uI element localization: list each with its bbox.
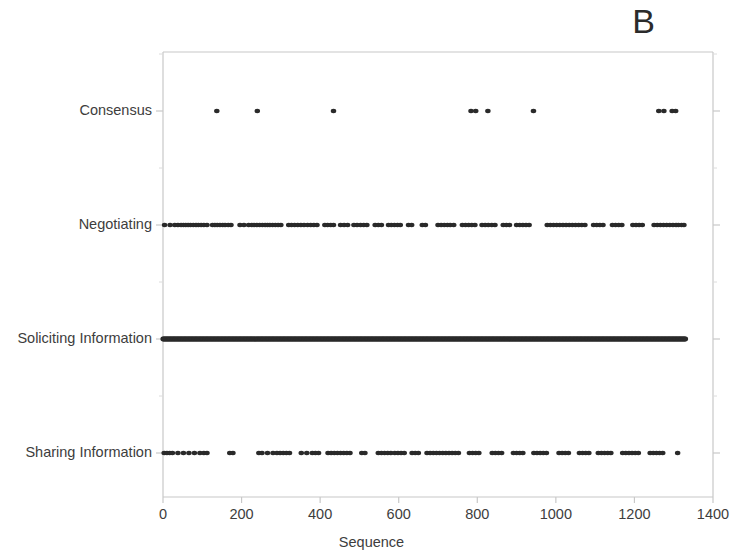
x-tick-label: 200 xyxy=(202,506,282,522)
y-tick-label: Consensus xyxy=(0,102,152,118)
x-tick-label: 400 xyxy=(280,506,360,522)
panel-label: B xyxy=(632,2,655,41)
y-tick-label: Negotiating xyxy=(0,216,152,232)
x-tick-label: 800 xyxy=(437,506,517,522)
figure-panel: B 0200400600800100012001400ConsensusNego… xyxy=(0,0,743,560)
x-tick-label: 1000 xyxy=(516,506,596,522)
scatter-plot xyxy=(0,0,743,560)
x-tick-label: 1200 xyxy=(594,506,674,522)
x-tick-label: 600 xyxy=(359,506,439,522)
x-axis-title: Sequence xyxy=(0,534,743,550)
x-tick-label: 0 xyxy=(123,506,203,522)
y-tick-label: Soliciting Information xyxy=(0,330,152,346)
y-tick-label: Sharing Information xyxy=(0,444,152,460)
x-tick-label: 1400 xyxy=(673,506,743,522)
